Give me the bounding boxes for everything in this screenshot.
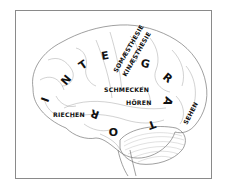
integrator-letter-n: N: [58, 73, 74, 88]
cerebellum-striations: [124, 133, 184, 162]
integrator-letter-r2: R: [88, 106, 101, 121]
integrator-letter-e: E: [100, 49, 110, 63]
brain-diagram: I N T E G R A T O R SOMÆSTHESIE KINÆSTHE…: [0, 0, 235, 194]
integrator-letter-r: R: [160, 70, 175, 86]
integrator-letter-g: G: [139, 56, 151, 71]
integrator-letter-a: A: [160, 95, 175, 108]
label-riechen: RIECHEN: [53, 111, 85, 118]
label-sehen: SEHEN: [182, 101, 200, 126]
brain-stem: [118, 150, 136, 176]
integrator-letter-o: O: [109, 125, 118, 138]
integrator-letter-t2: T: [145, 117, 157, 132]
label-schmecken: SCHMECKEN: [104, 86, 149, 93]
label-hoeren: HÖREN: [126, 99, 152, 106]
integrator-letter-t: T: [76, 57, 90, 72]
integrator-letter-i: I: [39, 96, 53, 104]
